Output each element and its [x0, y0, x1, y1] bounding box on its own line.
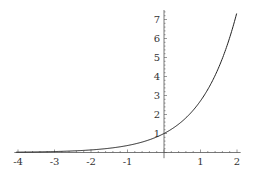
x-tick-label: -2: [86, 156, 96, 167]
x-tick-label: 2: [234, 156, 240, 167]
axes: [14, 10, 240, 158]
tick-labels: -4-3-2-1121234567: [13, 14, 240, 167]
x-tick-label: -3: [50, 156, 60, 167]
chart-plot: -4-3-2-1121234567: [0, 0, 253, 181]
x-tick-label: 1: [197, 156, 203, 167]
x-tick-label: -4: [13, 156, 23, 167]
y-tick-label: 5: [154, 52, 160, 63]
y-tick-label: 2: [154, 109, 160, 120]
y-tick-label: 6: [154, 33, 160, 44]
y-tick-label: 7: [154, 14, 160, 25]
exp-curve: [16, 14, 236, 153]
y-tick-label: 3: [154, 90, 160, 101]
tick-marks: [18, 12, 237, 153]
y-tick-label: 4: [154, 71, 160, 82]
x-tick-label: -1: [123, 156, 133, 167]
